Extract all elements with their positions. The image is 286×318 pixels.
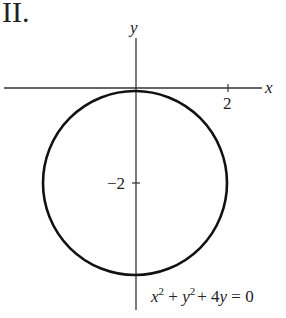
x-axis-label: x	[264, 78, 273, 97]
y-tick-label: −2	[107, 174, 125, 193]
figure-label: II.	[2, 0, 29, 28]
y-axis-label: y	[128, 18, 138, 37]
circle-diagram: II. x y 2 −2 x2 + y2+ 4y = 0	[0, 0, 286, 318]
equation-label: x2 + y2+ 4y = 0	[150, 285, 254, 306]
x-tick-label: 2	[223, 94, 232, 113]
